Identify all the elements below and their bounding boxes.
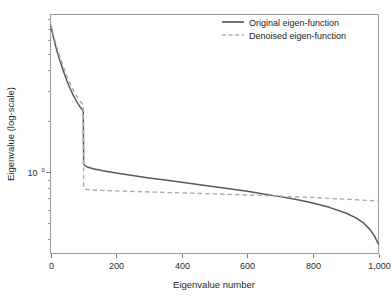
legend: Original eigen-function Denoised eigen-f… — [222, 18, 346, 41]
legend-label-denoised: Denoised eigen-function — [249, 31, 346, 41]
x-tick-label: 800 — [306, 261, 321, 271]
x-tick-label: 400 — [175, 261, 190, 271]
x-tick-label: 600 — [240, 261, 255, 271]
y-axis-title: Eigenvalue (log-scale) — [5, 87, 16, 181]
x-axis-tick-labels: 02004006008001,000 — [49, 261, 391, 271]
data-series-group — [51, 24, 379, 244]
x-tick-label: 0 — [49, 261, 54, 271]
legend-label-original: Original eigen-function — [249, 18, 339, 28]
x-tick-label: 200 — [109, 261, 124, 271]
eigenvalue-spectrum-chart: 02004006008001,000 100 Original eigen-fu… — [0, 0, 391, 308]
y-tick-label-exponent: 0 — [42, 167, 46, 173]
plot-frame — [51, 15, 379, 254]
y-axis-tick-labels: 100 — [27, 167, 45, 179]
x-tick-label: 1,000 — [368, 261, 391, 271]
series-line-denoised — [51, 24, 379, 201]
series-line-original — [51, 26, 379, 244]
y-tick-label: 10 — [27, 168, 37, 178]
x-axis-title: Eigenvalue number — [173, 279, 255, 290]
x-axis-ticks — [52, 254, 380, 258]
plot-frame-rect — [51, 15, 379, 254]
figure-container: 02004006008001,000 100 Original eigen-fu… — [0, 0, 391, 308]
